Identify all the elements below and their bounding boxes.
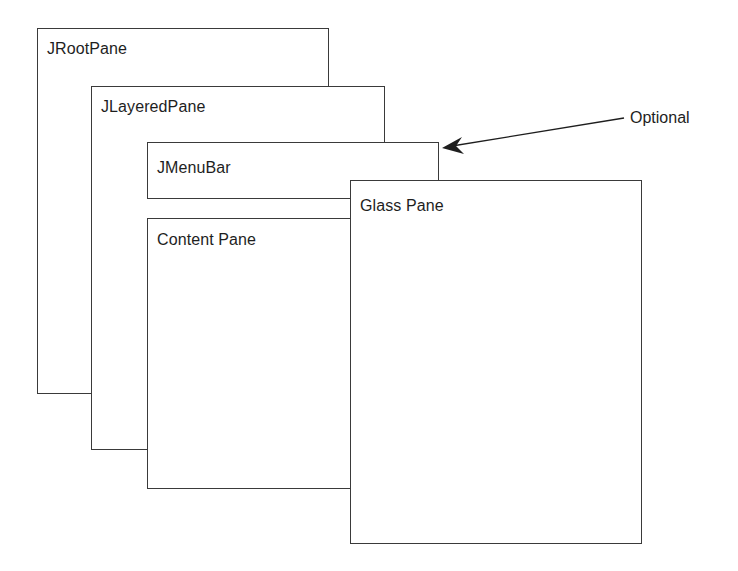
glasspane-label: Glass Pane	[360, 197, 444, 215]
jrootpane-label: JRootPane	[47, 40, 127, 58]
glasspane-box: Glass Pane	[350, 180, 642, 544]
optional-label: Optional	[630, 109, 690, 127]
contentpane-label: Content Pane	[157, 231, 256, 249]
arrow-line	[452, 118, 624, 146]
arrowhead-icon	[442, 137, 464, 154]
jlayeredpane-label: JLayeredPane	[101, 98, 205, 116]
contentpane-box: Content Pane	[147, 218, 351, 489]
jmenubar-label: JMenuBar	[157, 159, 231, 177]
